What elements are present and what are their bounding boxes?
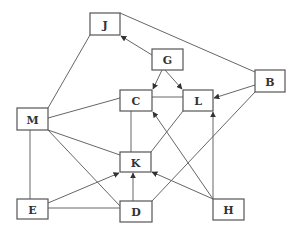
edge-m-c xyxy=(48,98,120,118)
edge-m-d xyxy=(48,130,120,206)
edge-g-l xyxy=(165,70,182,89)
node-label: H xyxy=(223,204,233,217)
node-e: E xyxy=(17,199,48,219)
node-label: C xyxy=(132,95,141,108)
edge-b-l xyxy=(214,85,255,98)
node-label: J xyxy=(101,19,107,32)
node-label: B xyxy=(265,76,274,89)
node-h: H xyxy=(213,199,244,220)
node-l: L xyxy=(183,90,213,111)
node-label: D xyxy=(131,206,141,219)
node-label: E xyxy=(28,204,36,217)
edge-m-j xyxy=(48,35,90,108)
node-m: M xyxy=(17,108,48,130)
nodes-layer: JGBCLMKEDH xyxy=(17,13,285,222)
edge-g-c xyxy=(153,70,162,89)
node-g: G xyxy=(152,49,183,70)
node-label: G xyxy=(163,54,172,67)
edge-m-k xyxy=(48,130,120,155)
node-b: B xyxy=(255,70,285,92)
node-label: L xyxy=(194,95,202,108)
node-label: K xyxy=(131,157,141,170)
graph-diagram: JGBCLMKEDH xyxy=(0,0,299,235)
node-j: J xyxy=(90,13,120,35)
node-d: D xyxy=(120,201,152,222)
edge-g-j xyxy=(121,36,152,55)
node-c: C xyxy=(120,90,152,111)
node-label: M xyxy=(26,114,38,127)
edge-e-k xyxy=(48,173,119,203)
node-k: K xyxy=(120,152,151,172)
edge-j-b xyxy=(120,13,255,72)
